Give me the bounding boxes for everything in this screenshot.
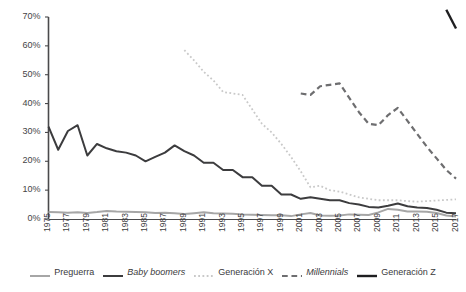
legend-item-generacin-z[interactable]: Generación Z bbox=[357, 267, 436, 277]
legend-item-generacin-x[interactable]: Generación X bbox=[194, 267, 273, 277]
x-axis-tick-label: 2011 bbox=[391, 214, 401, 232]
x-axis-tick-label: 1983 bbox=[120, 213, 130, 232]
x-axis-tick-label: 1975 bbox=[42, 213, 52, 232]
x-axis-tick-label: 1979 bbox=[81, 213, 91, 232]
x-axis-tick-label: 2013 bbox=[411, 213, 421, 232]
legend-item-preguerra[interactable]: Preguerra bbox=[30, 267, 94, 277]
legend-swatch-icon bbox=[282, 267, 302, 277]
legend-swatch-icon bbox=[103, 267, 123, 277]
x-axis-tick-label: 1999 bbox=[275, 213, 285, 232]
y-axis-tick-label: 10% bbox=[0, 184, 41, 194]
x-axis-tick-label: 2005 bbox=[333, 213, 343, 232]
x-axis-tick-label: 2015 bbox=[430, 213, 440, 232]
series-line bbox=[184, 50, 456, 202]
chart-series-lines bbox=[49, 10, 457, 217]
legend-label: Generación Z bbox=[381, 267, 436, 277]
series-line bbox=[446, 10, 456, 29]
chart-legend: PreguerraBaby boomersGeneración XMillenn… bbox=[0, 261, 466, 283]
x-axis-tick-label: 2003 bbox=[314, 213, 324, 232]
series-line bbox=[49, 125, 457, 213]
x-axis-tick-label: 1991 bbox=[197, 213, 207, 232]
chart-plot-area bbox=[0, 0, 466, 292]
legend-label: Preguerra bbox=[54, 267, 94, 277]
x-axis-tick-label: 2017 bbox=[450, 213, 460, 232]
series-line bbox=[301, 83, 456, 178]
legend-swatch-icon bbox=[30, 267, 50, 277]
legend-item-millennials[interactable]: Millennials bbox=[282, 267, 348, 277]
x-axis-tick-label: 1987 bbox=[158, 213, 168, 232]
y-axis-tick-label: 30% bbox=[0, 126, 41, 136]
legend-label: Millennials bbox=[306, 267, 348, 277]
legend-item-baby-boomers[interactable]: Baby boomers bbox=[103, 267, 185, 277]
legend-label: Baby boomers bbox=[127, 267, 185, 277]
y-axis-tick-label: 40% bbox=[0, 98, 41, 108]
y-axis-tick-label: 70% bbox=[0, 11, 41, 21]
chart-axes bbox=[49, 17, 457, 220]
legend-swatch-icon bbox=[357, 267, 377, 277]
x-axis-tick-label: 2009 bbox=[372, 213, 382, 232]
y-axis-tick-label: 20% bbox=[0, 155, 41, 165]
legend-label: Generación X bbox=[218, 267, 273, 277]
y-axis-tick-label: 50% bbox=[0, 69, 41, 79]
x-axis-tick-label: 1989 bbox=[178, 213, 188, 232]
generational-share-line-chart: 0%10%20%30%40%50%60%70% 1975197719791981… bbox=[0, 0, 466, 292]
x-axis-tick-label: 1981 bbox=[100, 213, 110, 232]
x-axis-tick-label: 2007 bbox=[352, 213, 362, 232]
x-axis-tick-label: 1997 bbox=[255, 213, 265, 232]
y-axis-tick-label: 0% bbox=[0, 213, 41, 223]
x-axis-tick-label: 1985 bbox=[139, 213, 149, 232]
x-axis-tick-label: 2001 bbox=[294, 213, 304, 232]
legend-swatch-icon bbox=[194, 267, 214, 277]
x-axis-tick-label: 1993 bbox=[217, 213, 227, 232]
y-axis-tick-label: 60% bbox=[0, 40, 41, 50]
x-axis-tick-label: 1995 bbox=[236, 213, 246, 232]
x-axis-tick-label: 1977 bbox=[61, 213, 71, 232]
